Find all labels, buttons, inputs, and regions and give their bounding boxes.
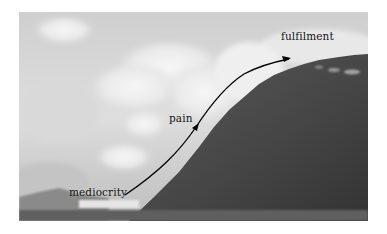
lake bbox=[79, 200, 139, 208]
label-pain: pain bbox=[169, 112, 193, 124]
label-fulfilment: fulfilment bbox=[281, 30, 334, 42]
foreground bbox=[19, 210, 368, 221]
label-mediocrity: mediocrity bbox=[69, 186, 127, 198]
